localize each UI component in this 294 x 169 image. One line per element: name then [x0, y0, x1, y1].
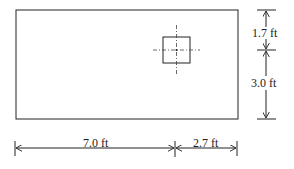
dim-label-bottom-offset: 3.0 ft: [251, 77, 276, 89]
column-center-point: [176, 49, 178, 51]
dim-label-right-length: 2.7 ft: [193, 137, 218, 149]
footing-diagram: [0, 0, 294, 169]
dim-label-left-length: 7.0 ft: [83, 137, 108, 149]
footing-outline: [16, 10, 238, 119]
dim-label-top-offset: 1.7 ft: [252, 27, 277, 39]
